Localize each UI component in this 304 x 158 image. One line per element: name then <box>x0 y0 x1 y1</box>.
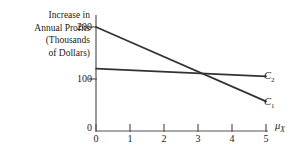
series-label-c2: C2 <box>264 70 275 84</box>
y-tick-label-200: 200 <box>68 21 92 32</box>
series-line-c2 <box>96 69 266 77</box>
series-label-c2-name: C <box>264 70 271 81</box>
x-tick-label-1: 1 <box>120 133 140 144</box>
x-axis-label-sub: X <box>280 125 285 134</box>
series-line-c1 <box>96 27 266 101</box>
y-axis-label-line-3: (Thousands <box>6 34 90 47</box>
x-tick-label-2: 2 <box>154 133 174 144</box>
x-tick-label-4: 4 <box>222 133 242 144</box>
series-label-c1: C1 <box>264 96 275 110</box>
x-tick-label-3: 3 <box>188 133 208 144</box>
x-tick-label-0: 0 <box>86 133 106 144</box>
series-label-c2-sub: 2 <box>271 76 275 84</box>
series-label-c1-name: C <box>264 96 271 107</box>
series-label-c1-sub: 1 <box>271 102 275 110</box>
y-tick-label-0: 0 <box>72 122 92 133</box>
chart-figure: Increase in Annual Profits (Thousands of… <box>0 0 304 158</box>
y-axis-label-line-1: Increase in <box>6 9 90 22</box>
x-axis-label: μX <box>275 120 285 134</box>
y-tick-label-100: 100 <box>68 73 92 84</box>
y-axis-label: Increase in Annual Profits (Thousands of… <box>6 9 90 59</box>
y-axis-label-line-4: of Dollars) <box>6 47 90 60</box>
x-tick-label-5: 5 <box>256 133 276 144</box>
